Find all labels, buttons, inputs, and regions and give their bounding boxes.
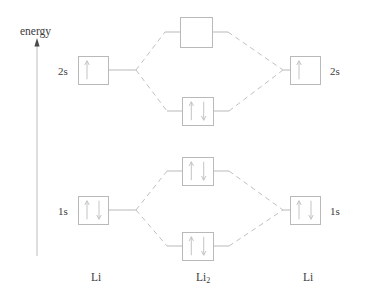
- left-1s-orbital: [79, 197, 109, 225]
- energy-axis-arrowhead: [34, 38, 39, 47]
- right-1s-label: 1s: [330, 206, 340, 217]
- left-2s-orbital: [79, 57, 109, 85]
- sigma-1s-orbital: [183, 233, 214, 261]
- correlation-lines-group: [136, 32, 283, 246]
- sigma-2s-to-right-2s: [229, 70, 283, 111]
- left-2s-to-sigma-2s: [136, 70, 167, 111]
- sigma-star-1s-to-right-1s: [229, 171, 283, 210]
- connector-lines-group: [108, 32, 290, 246]
- sigma-2s-orbital: [183, 98, 214, 126]
- left-1s-to-sigma-star-1s: [136, 171, 167, 210]
- right-2s-label: 2s: [330, 66, 340, 77]
- sigma-star-2s-to-right-2s: [228, 32, 283, 70]
- right-1s-orbital: [291, 197, 321, 225]
- orbital-boxes-group: [79, 18, 321, 261]
- column-label-left-atom: Li: [91, 272, 101, 284]
- mo-diagram-canvas: energy 2s2s1s1sLiLi2Li: [0, 0, 374, 294]
- energy-axis-group: [34, 38, 39, 256]
- column-label-subscript: 2: [206, 276, 210, 285]
- sigma-star-2s-orbital: [181, 18, 213, 48]
- left-1s-to-sigma-1s: [136, 210, 167, 246]
- left-2s-label: 2s: [58, 66, 68, 77]
- column-label-right-atom: Li: [303, 272, 313, 284]
- right-2s-orbital: [291, 57, 321, 85]
- diagram-vector-layer: [0, 0, 374, 294]
- sigma-1s-to-right-1s: [229, 210, 283, 246]
- left-2s-to-sigma-star-2s: [136, 32, 165, 70]
- column-label-molecule: Li2: [196, 272, 210, 285]
- energy-axis-label: energy: [20, 26, 51, 38]
- left-1s-label: 1s: [58, 206, 68, 217]
- sigma-star-1s-orbital: [183, 158, 214, 186]
